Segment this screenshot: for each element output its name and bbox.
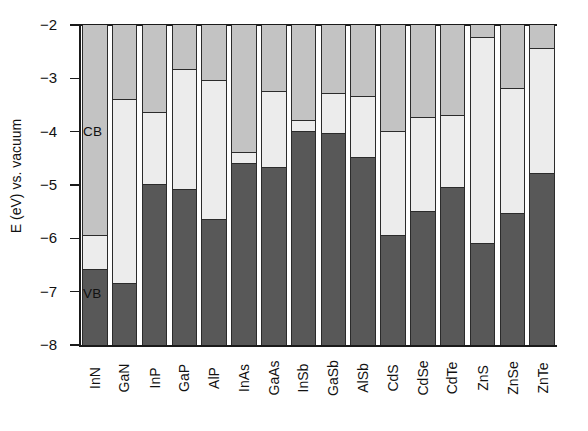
x-tick-label-zns: ZnS <box>470 348 496 426</box>
valence-band-segment <box>470 244 496 345</box>
bar-cdte <box>440 25 466 345</box>
x-tick-label-text: InP <box>147 367 163 388</box>
y-tick-mark <box>70 291 79 293</box>
conduction-band-segment <box>470 25 496 38</box>
x-tick-label-text: GaN <box>117 364 133 393</box>
band-gap-segment <box>82 236 108 271</box>
band-gap-segment <box>410 118 436 211</box>
bar-inas <box>231 25 257 345</box>
x-tick-label-text: InSb <box>296 364 312 393</box>
plot-area <box>80 25 557 345</box>
x-tick-label-cdte: CdTe <box>440 348 466 426</box>
y-tick-label: −4 <box>23 124 57 139</box>
band-gap-segment <box>172 70 198 190</box>
x-tick-label-text: GaAs <box>266 360 282 395</box>
conduction-band-segment <box>291 25 317 121</box>
band-gap-segment <box>500 89 526 214</box>
x-tick-label-text: CdSe <box>415 360 431 395</box>
bar-insb <box>291 25 317 345</box>
x-tick-label-gaas: GaAs <box>261 348 287 426</box>
valence-band-segment <box>291 132 317 345</box>
valence-band-segment <box>261 168 287 345</box>
band-gap-segment <box>440 116 466 188</box>
conduction-band-segment <box>380 25 406 132</box>
conduction-band-segment <box>321 25 347 94</box>
bar-znte <box>529 25 555 345</box>
x-tick-label-text: ZnTe <box>534 362 550 393</box>
bar-gaas <box>261 25 287 345</box>
y-tick-label: −2 <box>23 17 57 32</box>
valence-band-segment <box>112 284 138 345</box>
x-tick-label-text: GaP <box>176 364 192 392</box>
band-gap-segment <box>380 132 406 236</box>
band-gap-segment <box>112 100 138 284</box>
conduction-band-segment <box>350 25 376 97</box>
conduction-band-segment <box>410 25 436 118</box>
x-tick-label-text: ZnSe <box>504 361 520 394</box>
y-tick-mark <box>70 184 79 186</box>
valence-band-segment <box>440 188 466 345</box>
conduction-band-segment <box>142 25 168 113</box>
bar-gap <box>172 25 198 345</box>
conduction-band-segment <box>112 25 138 100</box>
x-tick-label-insb: InSb <box>291 348 317 426</box>
band-gap-segment <box>291 121 317 132</box>
band-gap-segment <box>142 113 168 185</box>
valence-band-segment <box>201 220 227 345</box>
band-gap-segment <box>321 94 347 134</box>
y-tick-label: −3 <box>23 70 57 85</box>
valence-band-segment <box>142 185 168 345</box>
x-tick-label-inn: InN <box>82 348 108 426</box>
x-tick-label-gasb: GaSb <box>321 348 347 426</box>
y-tick-mark <box>70 344 79 346</box>
valence-band-segment <box>350 158 376 345</box>
cb-annotation-label: CB <box>83 124 102 139</box>
x-tick-label-alp: AlP <box>201 348 227 426</box>
x-tick-label-text: InN <box>87 367 103 389</box>
band-alignment-chart: E (eV) vs. vacuum −2−3−4−5−6−7−8 CB VB I… <box>0 0 588 431</box>
x-axis-tick-labels: InNGaNInPGaPAlPInAsGaAsInSbGaSbAlSbCdSCd… <box>80 348 557 428</box>
conduction-band-segment <box>261 25 287 92</box>
conduction-band-segment <box>529 25 555 49</box>
bar-inp <box>142 25 168 345</box>
x-tick-label-text: GaSb <box>325 360 341 396</box>
bar-zns <box>470 25 496 345</box>
x-tick-label-text: InAs <box>236 364 252 392</box>
band-gap-segment <box>261 92 287 168</box>
x-tick-label-cds: CdS <box>380 348 406 426</box>
y-tick-label: −6 <box>23 230 57 245</box>
band-gap-segment <box>231 153 257 164</box>
vb-annotation-label: VB <box>83 286 101 301</box>
valence-band-segment <box>231 164 257 345</box>
band-gap-segment <box>529 49 555 174</box>
bar-gasb <box>321 25 347 345</box>
valence-band-segment <box>82 270 108 345</box>
x-tick-label-text: AlP <box>206 367 222 389</box>
y-tick-mark <box>70 238 79 240</box>
band-gap-segment <box>201 81 227 220</box>
conduction-band-segment <box>231 25 257 153</box>
y-tick-mark <box>70 131 79 133</box>
valence-band-segment <box>321 134 347 345</box>
y-tick-mark <box>70 24 79 26</box>
valence-band-segment <box>380 236 406 345</box>
y-axis-ticks: −2−3−4−5−6−7−8 <box>0 0 79 431</box>
y-tick-label: −7 <box>23 284 57 299</box>
y-tick-mark <box>70 78 79 80</box>
valence-band-segment <box>500 214 526 345</box>
x-axis-line <box>79 345 557 347</box>
bar-alsb <box>350 25 376 345</box>
x-tick-label-znse: ZnSe <box>500 348 526 426</box>
x-tick-label-text: AlSb <box>355 363 371 393</box>
y-tick-label: −8 <box>23 337 57 352</box>
x-tick-label-inp: InP <box>142 348 168 426</box>
x-tick-label-gap: GaP <box>172 348 198 426</box>
bar-cds <box>380 25 406 345</box>
y-tick-label: −5 <box>23 177 57 192</box>
band-gap-segment <box>470 38 496 243</box>
x-tick-label-inas: InAs <box>231 348 257 426</box>
conduction-band-segment <box>440 25 466 116</box>
x-tick-label-alsb: AlSb <box>350 348 376 426</box>
valence-band-segment <box>172 190 198 345</box>
band-gap-segment <box>350 97 376 158</box>
